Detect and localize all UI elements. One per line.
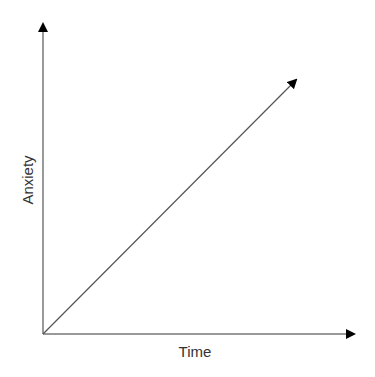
x-axis-label: Time — [179, 343, 212, 360]
anxiety-time-diagram: Anxiety Time — [0, 0, 375, 377]
trend-line — [43, 80, 296, 334]
y-axis-label: Anxiety — [19, 155, 36, 205]
